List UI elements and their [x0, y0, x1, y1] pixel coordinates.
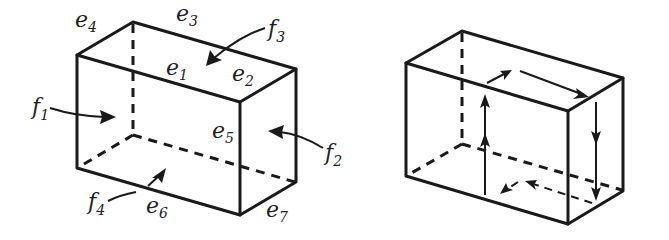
label-e4: e4: [75, 7, 97, 35]
left-box: e4 e3 e1 e2 e5 e6 e7 f1 f2 f3 f4: [30, 1, 342, 225]
label-e5: e5: [212, 118, 234, 146]
f1-arrowhead-icon: [100, 110, 116, 124]
f4-arrow-tail: [108, 192, 136, 201]
label-f2: f2: [323, 140, 342, 169]
top-face-outline: [77, 22, 296, 102]
hidden-edge-left: [408, 144, 462, 175]
loop-bottom-dashed-arrow: [530, 183, 592, 203]
bottom-left-arrowhead-icon: [500, 183, 513, 194]
label-e3: e3: [176, 1, 198, 29]
top-arrowhead-icon: [573, 88, 589, 99]
right-box: [406, 31, 623, 224]
label-f3: f3: [266, 16, 285, 45]
right-face-outline: [240, 69, 296, 215]
f2-arrow: [280, 132, 323, 148]
loop-diagonal-arrow: [487, 73, 506, 83]
top-face-outline: [406, 31, 623, 111]
label-f4: f4: [86, 189, 105, 218]
label-f1: f1: [30, 94, 49, 123]
label-e2: e2: [232, 61, 254, 89]
loop-top-arrow: [520, 71, 584, 95]
diagram-canvas: e4 e3 e1 e2 e5 e6 e7 f1 f2 f3 f4: [0, 0, 669, 240]
label-e7: e7: [266, 197, 288, 225]
label-e6: e6: [146, 193, 168, 221]
label-e1: e1: [166, 55, 188, 83]
f2-arrowhead-icon: [268, 125, 284, 139]
hidden-edge-left: [79, 135, 133, 167]
